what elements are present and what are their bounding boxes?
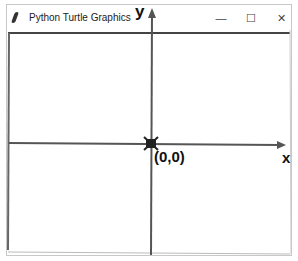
x-axis xyxy=(9,143,280,145)
origin-label: (0,0) xyxy=(154,148,185,165)
y-axis-label: y xyxy=(135,2,144,22)
x-axis-label: x xyxy=(282,149,290,166)
x-axis-arrow-icon xyxy=(277,141,286,149)
y-axis xyxy=(151,14,152,255)
turtle-canvas[interactable]: y x (0,0) xyxy=(0,0,298,261)
y-axis-arrow-icon xyxy=(148,8,156,18)
axes-drawing xyxy=(0,0,298,261)
